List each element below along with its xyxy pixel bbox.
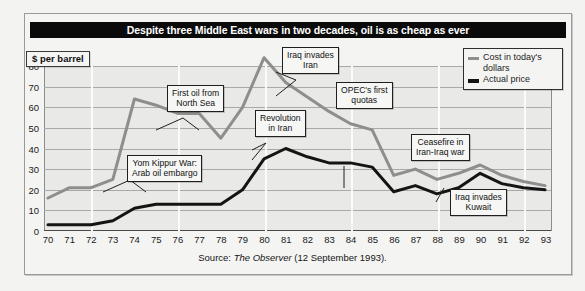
annotation-iraq-invades-iran-line2: Iran [287,60,334,70]
annotation-ceasefire-line2: Iran-Iraq war [416,147,465,157]
legend-swatch-actual-price [468,79,479,83]
annotation-opec-quotas-line1: OPEC's first [341,85,388,95]
annotation-ceasefire: Ceasefire in Iran-Iraq war [411,134,470,161]
chart-screenshot: Despite three Middle East wars in two de… [0,0,585,291]
annotation-ceasefire-line1: Ceasefire in [416,137,465,147]
source-suffix: (12 September 1993). [292,252,387,263]
y-tick-40: 40 [28,143,39,154]
legend-label-cost-today-line1: Cost in today's [483,52,542,62]
source-publication: The Observer [234,252,292,263]
annotation-yom-kippur-line1: Yom Kippur War: [132,158,197,168]
annotation-iraq-invades-kuwait-line2: Kuwait [455,202,502,212]
legend-label-actual-price: Actual price [483,74,530,85]
y-tick-30: 30 [28,164,39,175]
annotation-north-sea-line1: First oil from [172,88,219,98]
annotation-iraq-invades-iran-line1: Iraq invades [287,50,334,60]
chart-title: Despite three Middle East wars in two de… [30,22,566,38]
legend: Cost in today's dollars Actual price [463,48,563,90]
annotation-iraq-invades-kuwait: Iraq invades Kuwait [450,189,507,216]
y-tick-0: 0 [34,226,39,237]
annotation-yom-kippur-line2: Arab oil embargo [132,168,197,178]
annotation-revolution-iran-line1: Revolution [260,113,301,123]
source-note: Source: The Observer (12 September 1993)… [0,252,585,263]
legend-label-cost-today: Cost in today's dollars [483,52,542,74]
annotation-iraq-invades-iran: Iraq invades Iran [282,47,339,74]
source-prefix: Source: [198,252,233,263]
legend-item-cost-today: Cost in today's dollars [468,52,558,74]
y-axis-unit-label: $ per barrel [26,51,90,67]
annotation-iraq-invades-kuwait-line1: Iraq invades [455,192,502,202]
y-tick-60: 60 [28,102,39,113]
y-tick-70: 70 [28,81,39,92]
legend-swatch-cost-today [468,57,479,60]
legend-label-cost-today-line2: dollars [483,63,510,73]
y-tick-10: 10 [28,205,39,216]
annotation-opec-quotas: OPEC's first quotas [336,82,393,109]
annotation-revolution-iran-line2: in Iran [260,123,301,133]
annotation-revolution-iran: Revolution in Iran [255,110,306,137]
annotation-opec-quotas-line2: quotas [341,95,388,105]
annotation-north-sea: First oil from North Sea [167,85,224,112]
annotation-yom-kippur: Yom Kippur War: Arab oil embargo [127,155,202,182]
y-tick-50: 50 [28,122,39,133]
legend-item-actual-price: Actual price [468,74,558,85]
annotation-north-sea-line2: North Sea [172,98,219,108]
y-tick-20: 20 [28,184,39,195]
